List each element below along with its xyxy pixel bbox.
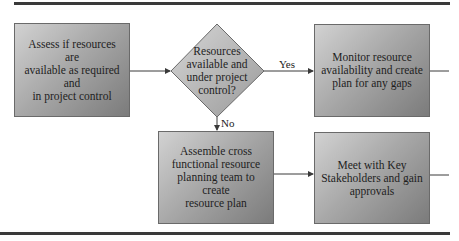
node-text-line: Meet with Key bbox=[321, 159, 423, 172]
yes-label: Yes bbox=[279, 58, 295, 70]
node-text-line: Stakeholders and gain bbox=[321, 172, 423, 185]
node-text-line: available and bbox=[177, 58, 257, 71]
node-text-line: availability and create bbox=[321, 64, 423, 77]
node-text-line: resource plan bbox=[165, 197, 267, 210]
node-text-line: planning team to create bbox=[165, 171, 267, 197]
node-text-line: Assess if resources are bbox=[21, 38, 123, 64]
no-label: No bbox=[221, 117, 234, 129]
node-text-line: approvals bbox=[321, 185, 423, 198]
node-text-line: available as required and bbox=[21, 64, 123, 90]
node-text-line: Resources bbox=[177, 45, 257, 58]
node-text-line: Assemble cross bbox=[165, 145, 267, 158]
node-text-line: control? bbox=[177, 84, 257, 97]
node-meet: Meet with Key Stakeholders and gain appr… bbox=[314, 132, 430, 224]
node-text-line: functional resource bbox=[165, 158, 267, 171]
node-text-line: plan for any gaps bbox=[321, 77, 423, 90]
node-assemble: Assemble cross functional resource plann… bbox=[158, 131, 274, 224]
node-assess: Assess if resources are available as req… bbox=[14, 23, 130, 117]
node-monitor: Monitor resource availability and create… bbox=[314, 24, 430, 117]
decision-text: Resources available and under project co… bbox=[177, 45, 257, 97]
node-text-line: in project control bbox=[21, 90, 123, 103]
node-text-line: Monitor resource bbox=[321, 51, 423, 64]
node-text-line: under project bbox=[177, 71, 257, 84]
